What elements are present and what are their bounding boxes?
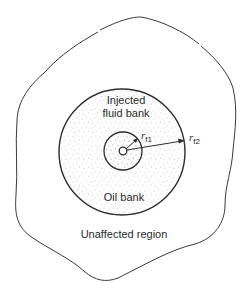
rf2-label: rf2 <box>189 131 201 146</box>
injected-label-line1: Injected <box>107 94 146 106</box>
injected-label-line2: fluid bank <box>102 107 150 119</box>
wellbore-icon <box>119 147 127 155</box>
unaffected-region-label: Unaffected region <box>81 228 168 240</box>
fluid-bank-diagram: Injected fluid bank Oil bank Unaffected … <box>0 0 252 291</box>
oil-bank-label: Oil bank <box>104 191 145 203</box>
